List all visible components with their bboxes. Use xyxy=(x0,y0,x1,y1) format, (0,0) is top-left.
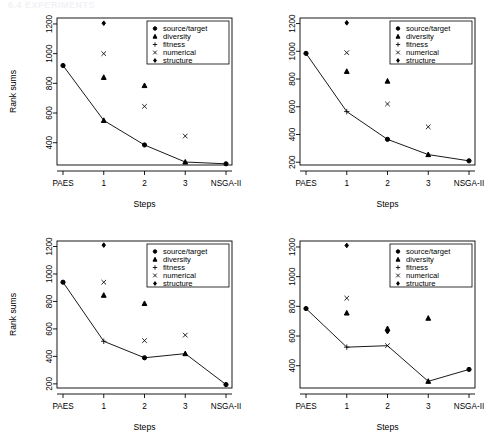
marker-filled-circle xyxy=(224,382,228,386)
marker-filled-circle xyxy=(467,159,471,163)
y-tick-label: 1200 xyxy=(288,14,297,33)
x-tick-label: 1 xyxy=(101,402,106,411)
data-line xyxy=(63,282,226,384)
marker-filled-triangle xyxy=(426,152,431,157)
y-tick-label: 800 xyxy=(45,76,54,90)
marker-cross xyxy=(183,333,188,338)
y-tick-label: 400 xyxy=(45,135,54,149)
x-tick-label: NSGA-II xyxy=(211,179,241,188)
legend: source/targetdiversityfitnessnumericalst… xyxy=(390,21,472,65)
y-tick-label: 600 xyxy=(288,329,297,343)
legend-label: structure xyxy=(163,56,193,65)
x-tick-label: PAES xyxy=(52,402,74,411)
data-line xyxy=(63,66,226,164)
legend: source/targetdiversityfitnessnumericalst… xyxy=(390,244,472,288)
marker-filled-diamond xyxy=(397,59,400,63)
marker-filled-circle xyxy=(304,51,308,55)
marker-filled-triangle xyxy=(142,301,147,306)
legend: source/targetdiversityfitnessnumericalst… xyxy=(147,21,229,65)
marker-cross xyxy=(101,51,106,56)
y-tick-label: 400 xyxy=(288,358,297,372)
marker-filled-diamond xyxy=(154,59,157,63)
y-tick-label: 1000 xyxy=(288,267,297,286)
marker-filled-triangle xyxy=(344,310,349,315)
y-tick-label: 1000 xyxy=(45,264,54,283)
data-line xyxy=(306,309,469,382)
marker-filled-circle xyxy=(142,143,146,147)
x-tick-label: 2 xyxy=(385,402,390,411)
x-tick-label: PAES xyxy=(295,179,317,188)
y-tick-label: 1200 xyxy=(45,237,54,256)
y-tick-label: 1200 xyxy=(45,14,54,33)
marker-filled-diamond xyxy=(154,282,157,286)
x-tick-label: 1 xyxy=(344,402,349,411)
x-tick-label: 1 xyxy=(101,179,106,188)
marker-plus xyxy=(344,109,349,114)
x-tick-label: 2 xyxy=(385,179,390,188)
x-tick-label: PAES xyxy=(52,179,74,188)
x-tick-label: 1 xyxy=(344,179,349,188)
legend-label: structure xyxy=(406,56,436,65)
x-axis-title: Steps xyxy=(134,422,156,432)
marker-cross xyxy=(344,296,349,301)
marker-filled-circle xyxy=(61,63,65,67)
marker-filled-circle xyxy=(61,280,65,284)
marker-filled-triangle xyxy=(183,351,188,356)
marker-filled-circle xyxy=(153,27,156,30)
chart-svg: 20040060080010001200PAES123NSGA-IIStepsR… xyxy=(0,223,242,446)
y-tick-label: 800 xyxy=(288,72,297,86)
marker-plus xyxy=(101,339,106,344)
data-line xyxy=(306,53,469,160)
marker-cross xyxy=(142,104,147,109)
chart-svg: 40060080010001200PAES123NSGA-IIStepsRank… xyxy=(0,0,242,223)
x-tick-label: 2 xyxy=(142,402,147,411)
marker-filled-circle xyxy=(224,162,228,166)
y-axis-title: Rank sums xyxy=(8,293,18,336)
marker-filled-circle xyxy=(153,250,156,253)
x-tick-label: 2 xyxy=(142,179,147,188)
y-tick-label: 600 xyxy=(288,99,297,113)
y-tick-label: 200 xyxy=(45,377,54,391)
marker-filled-diamond xyxy=(102,21,105,26)
y-tick-label: 400 xyxy=(45,349,54,363)
marker-cross xyxy=(385,102,390,107)
marker-cross xyxy=(344,50,349,55)
marker-filled-triangle xyxy=(142,83,147,88)
marker-filled-triangle xyxy=(426,316,431,321)
y-tick-label: 600 xyxy=(45,322,54,336)
marker-cross xyxy=(426,125,431,130)
x-axis-title: Steps xyxy=(377,199,399,209)
x-tick-label: NSGA-II xyxy=(454,402,484,411)
chart-panel-bottom-left: 20040060080010001200PAES123NSGA-IIStepsR… xyxy=(0,223,242,446)
y-tick-label: 800 xyxy=(45,294,54,308)
marker-filled-circle xyxy=(396,27,399,30)
y-axis-title: Rank sums xyxy=(8,70,18,113)
marker-filled-diamond xyxy=(345,21,348,26)
y-tick-label: 1000 xyxy=(288,42,297,61)
marker-filled-diamond xyxy=(345,243,348,248)
y-tick-label: 800 xyxy=(288,299,297,313)
marker-cross xyxy=(142,338,147,343)
x-tick-label: NSGA-II xyxy=(211,402,241,411)
x-tick-label: 3 xyxy=(426,402,431,411)
marker-filled-circle xyxy=(304,306,308,310)
x-tick-label: NSGA-II xyxy=(454,179,484,188)
marker-filled-circle xyxy=(396,250,399,253)
y-tick-label: 1000 xyxy=(45,44,54,63)
figure-panel-grid: 40060080010001200PAES123NSGA-IIStepsRank… xyxy=(0,0,485,446)
y-tick-label: 1200 xyxy=(288,237,297,256)
y-tick-label: 400 xyxy=(288,127,297,141)
chart-panel-top-left: 40060080010001200PAES123NSGA-IIStepsRank… xyxy=(0,0,242,223)
chart-panel-bottom-right: 40060080010001200PAES123NSGA-IIStepssour… xyxy=(243,223,485,446)
marker-filled-diamond xyxy=(397,282,400,286)
x-axis-title: Steps xyxy=(134,199,156,209)
marker-filled-triangle xyxy=(183,159,188,164)
x-tick-label: 3 xyxy=(183,179,188,188)
marker-filled-triangle xyxy=(344,69,349,74)
marker-cross xyxy=(183,134,188,139)
legend: source/targetdiversityfitnessnumericalst… xyxy=(147,244,229,288)
marker-filled-circle xyxy=(467,367,471,371)
marker-filled-triangle xyxy=(101,75,106,80)
chart-panel-top-right: 20040060080010001200PAES123NSGA-IIStepss… xyxy=(243,0,485,223)
legend-label: structure xyxy=(163,279,193,288)
